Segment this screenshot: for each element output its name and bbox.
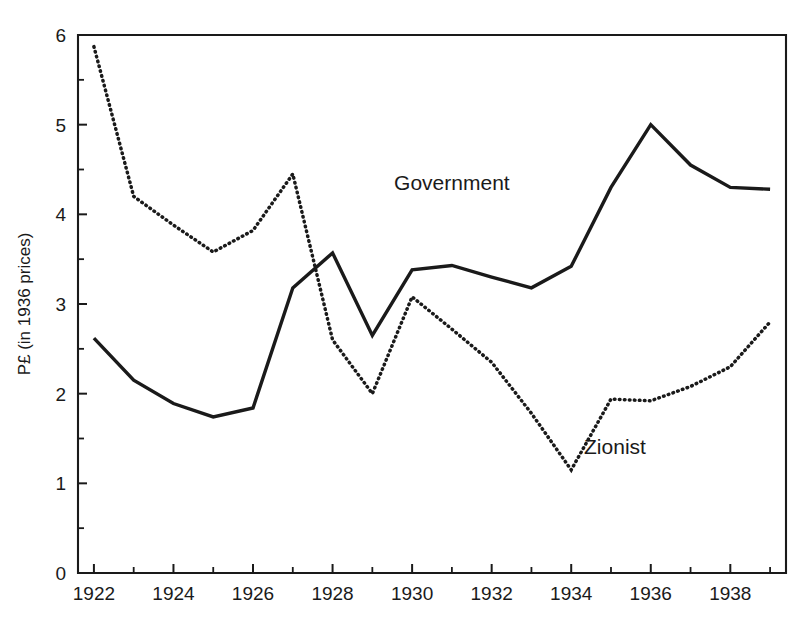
line-chart-figure: 192219241926192819301932193419361938 012… (0, 0, 808, 635)
y-tick-label: 4 (55, 204, 66, 225)
x-tick-label: 1932 (471, 583, 513, 604)
x-tick-label: 1924 (152, 583, 195, 604)
series-line-zionist (94, 47, 770, 470)
y-tick-label: 0 (55, 563, 66, 584)
series-label-government: Government (394, 171, 510, 194)
y-tick-label: 2 (55, 384, 66, 405)
chart-canvas: 192219241926192819301932193419361938 012… (0, 0, 808, 635)
y-axis-tick-labels: 0123456 (55, 25, 66, 584)
y-axis-label: P£ (in 1936 prices) (15, 233, 34, 376)
y-axis-title: P£ (in 1936 prices) (15, 233, 34, 376)
series-line-government (94, 125, 770, 417)
x-tick-label: 1936 (630, 583, 672, 604)
x-tick-label: 1926 (232, 583, 274, 604)
series-label-zionist: Zionist (584, 435, 646, 458)
axis-ticks (78, 35, 770, 573)
x-axis-tick-labels: 192219241926192819301932193419361938 (73, 583, 752, 604)
x-tick-label: 1930 (391, 583, 433, 604)
y-tick-label: 1 (55, 473, 66, 494)
plot-border (78, 35, 786, 573)
data-series (94, 47, 770, 470)
y-tick-label: 5 (55, 115, 66, 136)
x-tick-label: 1928 (311, 583, 353, 604)
x-tick-label: 1938 (709, 583, 751, 604)
y-tick-label: 3 (55, 294, 66, 315)
x-tick-label: 1934 (550, 583, 593, 604)
x-tick-label: 1922 (73, 583, 115, 604)
plot-frame (78, 35, 786, 573)
y-tick-label: 6 (55, 25, 66, 46)
